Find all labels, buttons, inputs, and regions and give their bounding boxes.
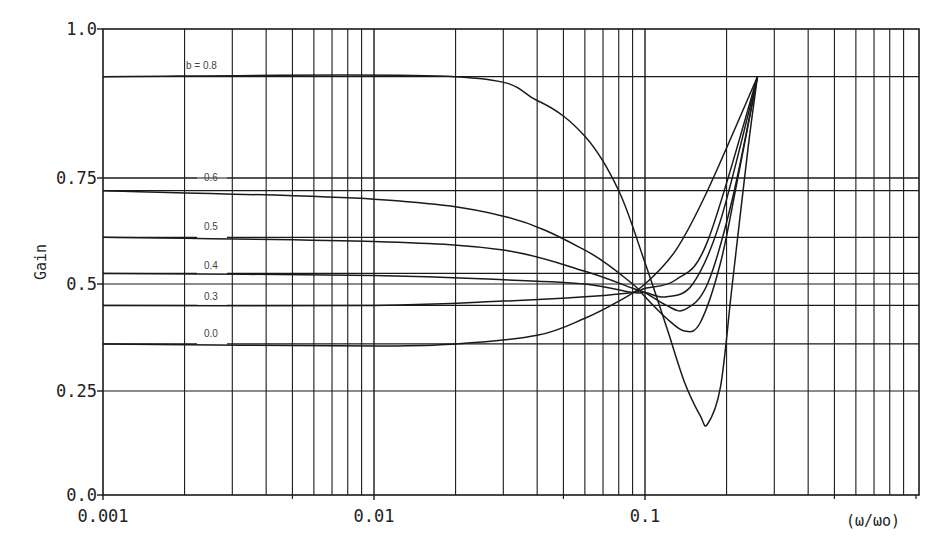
plot-frame bbox=[103, 29, 919, 495]
x-tick-label: 0.01 bbox=[354, 506, 395, 526]
y-axis-ticks: 0.00.250.50.751.0 bbox=[56, 19, 103, 505]
y-axis-title: Gain bbox=[32, 244, 50, 280]
curve-label: 0.6 bbox=[204, 172, 218, 183]
gain-curve bbox=[103, 77, 757, 297]
y-tick-label: 0.25 bbox=[56, 381, 97, 401]
gain-curve bbox=[103, 75, 757, 426]
curve-label: 0.4 bbox=[204, 260, 218, 271]
curve-labels: b = 0.80.60.50.40.30.0 bbox=[186, 60, 218, 339]
gain-curves bbox=[103, 75, 757, 426]
y-tick-label: 0.0 bbox=[66, 485, 97, 505]
y-tick-label: 1.0 bbox=[66, 19, 97, 39]
gain-chart: 0.00.250.50.751.0 0.0010.010.1 b = 0.80.… bbox=[0, 0, 939, 543]
x-tick-label: 0.1 bbox=[630, 506, 661, 526]
x-tick-label: 0.001 bbox=[77, 506, 128, 526]
curve-label: b = 0.8 bbox=[186, 60, 217, 71]
y-tick-label: 0.5 bbox=[66, 274, 97, 294]
gain-curve bbox=[103, 77, 757, 332]
x-axis-title: (ω/ωo) bbox=[846, 512, 900, 530]
curve-label: 0.5 bbox=[204, 221, 218, 232]
grid-horizontal-lines bbox=[103, 178, 919, 391]
grid-vertical-lines bbox=[185, 29, 904, 495]
reference-lines bbox=[103, 77, 919, 344]
x-axis-ticks: 0.0010.010.1 bbox=[77, 495, 916, 526]
y-tick-label: 0.75 bbox=[56, 168, 97, 188]
curve-label: 0.0 bbox=[204, 328, 218, 339]
curve-label: 0.3 bbox=[204, 291, 218, 302]
